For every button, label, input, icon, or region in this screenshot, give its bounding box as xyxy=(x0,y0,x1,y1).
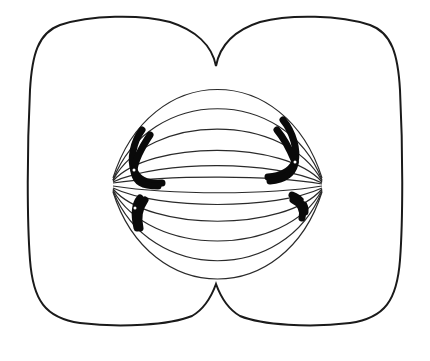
cell-division-diagram xyxy=(0,0,430,361)
diagram-figure: Cell division — late anaphase / early te… xyxy=(0,0,430,361)
